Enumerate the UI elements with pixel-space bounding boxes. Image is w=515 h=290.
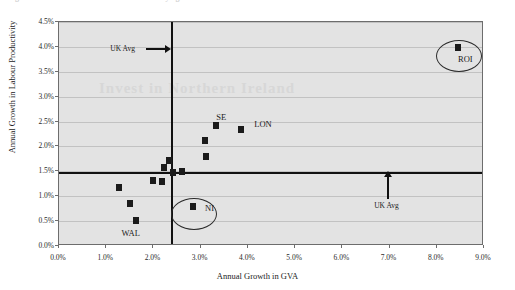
x-tick-label: 3.0% [192,253,208,262]
x-tick-label: 2.0% [145,253,161,262]
x-tick-label: 8.0% [428,253,444,262]
y-tick-mark [55,170,58,171]
x-tick-mark [294,245,295,248]
x-tick-label: 1.0% [97,253,113,262]
x-tick-mark [436,245,437,248]
data-point [116,184,122,191]
x-tick-mark [58,245,59,248]
y-tick-label: 2.0% [20,141,54,150]
y-tick-mark [55,195,58,196]
x-axis-label: Annual Growth in GVA [0,271,515,281]
x-tick-label: 0.0% [50,253,66,262]
y-tick-mark [55,71,58,72]
arrow-head [384,171,392,177]
y-tick-label: 3.5% [20,66,54,75]
y-tick-mark [55,21,58,22]
x-tick-label: 9.0% [475,253,491,262]
y-tick-mark [55,96,58,97]
x-tick-mark [105,245,106,248]
y-tick-label: 1.0% [20,191,54,200]
data-point-roi [455,44,461,51]
y-tick-mark [55,220,58,221]
data-point [203,153,209,160]
y-axis-label: Annual Growth in Labour Productivity [7,0,17,177]
gridline [59,196,482,197]
watermark-text: Invest in Northern Ireland [99,80,429,97]
chart-figure: Figure: Annual Growth in Labour Producti… [0,0,515,290]
x-tick-label: 6.0% [334,253,350,262]
data-point [166,157,172,164]
uk-avg-productivity [59,172,482,174]
x-tick-mark [341,245,342,248]
data-point-label-se: SE [216,112,226,122]
gridline [59,22,482,23]
x-tick-label: 4.0% [239,253,255,262]
arrow-up-icon [387,177,389,199]
data-point-label-lon: LON [254,119,271,129]
data-point [159,178,165,185]
gridline [59,97,482,98]
y-tick-mark [55,121,58,122]
figure-title: Figure: Annual Growth in Labour Producti… [8,0,508,5]
plot-area: Invest in Northern Ireland ROISELONNIWAL… [58,21,483,245]
data-point-label-roi: ROI [458,54,473,64]
x-tick-label: 7.0% [381,253,397,262]
data-point-label-wal: WAL [122,228,140,238]
y-tick-label: 0.0% [20,241,54,250]
x-tick-mark [152,245,153,248]
x-tick-label: 5.0% [286,253,302,262]
gridline [59,221,482,222]
x-tick-mark [200,245,201,248]
data-point-wal [133,217,139,224]
x-tick-mark [483,245,484,248]
x-tick-mark [247,245,248,248]
y-tick-label: 4.5% [20,17,54,26]
arrow-right-icon [146,48,166,50]
y-tick-label: 3.0% [20,91,54,100]
data-point [127,200,133,207]
y-tick-mark [55,145,58,146]
data-point [170,169,176,176]
arrow-head [165,45,171,53]
data-point [202,137,208,144]
y-tick-label: 2.5% [20,116,54,125]
y-tick-mark [55,46,58,47]
y-tick-label: 0.5% [20,216,54,225]
uk-avg-vertical-annotation: UK Avg [110,44,135,53]
data-point-label-ni: NI [205,203,214,213]
gridline [59,72,482,73]
gridline [59,146,482,147]
x-tick-mark [389,245,390,248]
data-point-ni [190,203,196,210]
data-point-se [213,122,219,129]
y-tick-label: 1.5% [20,166,54,175]
data-point [161,164,167,171]
data-point-lon [238,126,244,133]
uk-avg-horizontal-annotation: UK Avg [374,201,399,210]
data-point [179,168,185,175]
y-tick-label: 4.0% [20,41,54,50]
data-point [150,177,156,184]
